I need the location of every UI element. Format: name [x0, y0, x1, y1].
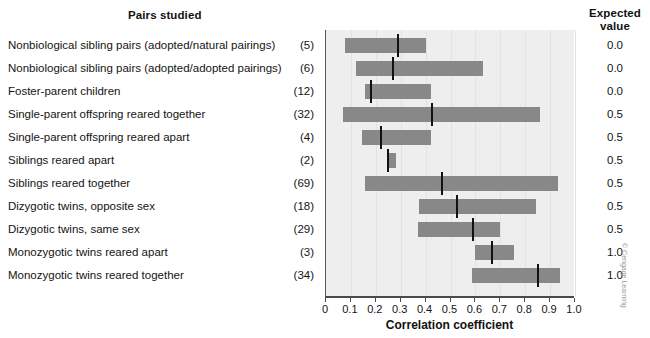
chart-row: Nonbiological sibling pairs (adopted/ado… — [0, 57, 650, 80]
x-axis-tick — [350, 298, 351, 302]
x-axis-tick — [499, 298, 500, 302]
x-axis-tick — [574, 298, 575, 302]
x-axis-tick-label: 1.0 — [557, 303, 591, 315]
row-label: Nonbiological sibling pairs (adopted/ado… — [8, 57, 280, 80]
row-expected-value: 0.5 — [586, 149, 644, 172]
row-expected-value: 1.0 — [586, 264, 644, 287]
row-label: Monozygotic twins reared apart — [8, 241, 280, 264]
row-pair-count: (5) — [280, 34, 314, 57]
row-expected-value: 0.5 — [586, 195, 644, 218]
row-pair-count: (69) — [280, 172, 314, 195]
chart-row: Monozygotic twins reared apart(3)1.0 — [0, 241, 650, 264]
x-axis-tick — [450, 298, 451, 302]
row-pair-count: (29) — [280, 218, 314, 241]
row-expected-value: 0.0 — [586, 80, 644, 103]
chart-row: Single-parent offspring reared apart(4)0… — [0, 126, 650, 149]
row-pair-count: (3) — [280, 241, 314, 264]
x-axis-label: Correlation coefficient — [325, 318, 574, 332]
row-expected-value: 0.0 — [586, 34, 644, 57]
row-expected-value: 0.5 — [586, 103, 644, 126]
chart-row: Dizygotic twins, opposite sex(18)0.5 — [0, 195, 650, 218]
row-label: Foster-parent children — [8, 80, 280, 103]
x-axis-tick — [400, 298, 401, 302]
row-label: Single-parent offspring reared together — [8, 103, 280, 126]
row-label: Siblings reared together — [8, 172, 280, 195]
chart-row: Single-parent offspring reared together(… — [0, 103, 650, 126]
row-label: Dizygotic twins, same sex — [8, 218, 280, 241]
row-label: Single-parent offspring reared apart — [8, 126, 280, 149]
chart-row: Siblings reared apart(2)0.5 — [0, 149, 650, 172]
x-axis-tick — [549, 298, 550, 302]
row-pair-count: (2) — [280, 149, 314, 172]
chart-row: Foster-parent children(12)0.0 — [0, 80, 650, 103]
row-label: Nonbiological sibling pairs (adopted/nat… — [8, 34, 280, 57]
row-pair-count: (34) — [280, 264, 314, 287]
x-axis-tick — [375, 298, 376, 302]
row-expected-value: 0.5 — [586, 172, 644, 195]
credit-text: © Cengage Learning — [621, 243, 628, 308]
x-axis-tick — [425, 298, 426, 302]
row-expected-value: 0.0 — [586, 57, 644, 80]
row-pair-count: (12) — [280, 80, 314, 103]
correlation-coefficient-figure: Pairs studied Expected value Nonbiologic… — [0, 0, 650, 338]
expected-value-line-2: value — [586, 20, 644, 33]
expected-value-line-1: Expected — [586, 7, 644, 20]
row-expected-value: 0.5 — [586, 218, 644, 241]
row-expected-value: 0.5 — [586, 126, 644, 149]
chart-row: Dizygotic twins, same sex(29)0.5 — [0, 218, 650, 241]
row-pair-count: (4) — [280, 126, 314, 149]
column-header-pairs-studied: Pairs studied — [128, 9, 202, 21]
row-label: Dizygotic twins, opposite sex — [8, 195, 280, 218]
row-pair-count: (6) — [280, 57, 314, 80]
row-label: Siblings reared apart — [8, 149, 280, 172]
row-pair-count: (18) — [280, 195, 314, 218]
row-label: Monozygotic twins reared together — [8, 264, 280, 287]
chart-row: Nonbiological sibling pairs (adopted/nat… — [0, 34, 650, 57]
row-pair-count: (32) — [280, 103, 314, 126]
row-expected-value: 1.0 — [586, 241, 644, 264]
chart-row: Monozygotic twins reared together(34)1.0 — [0, 264, 650, 287]
x-axis-tick — [524, 298, 525, 302]
x-axis-tick — [325, 298, 326, 302]
column-header-expected-value: Expected value — [586, 7, 644, 33]
x-axis-tick — [474, 298, 475, 302]
chart-row: Siblings reared together(69)0.5 — [0, 172, 650, 195]
